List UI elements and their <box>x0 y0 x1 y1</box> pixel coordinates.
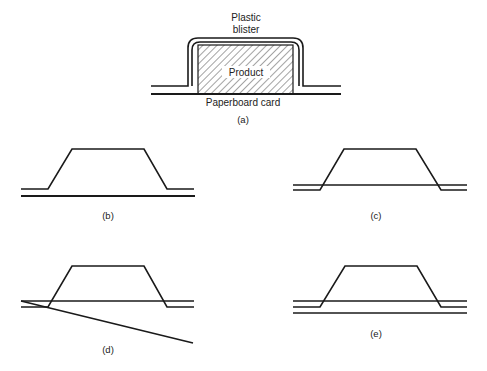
blister-profile-b <box>21 149 194 189</box>
blister-package-diagram: Plastic blister Product Paperboard card … <box>0 0 487 371</box>
label-paperboard-card: Paperboard card <box>206 97 281 108</box>
panel-a: Plastic blister Product Paperboard card … <box>151 12 341 125</box>
caption-a: (a) <box>237 114 249 125</box>
caption-c: (c) <box>370 210 381 221</box>
blister-profile-c <box>293 149 467 190</box>
panel-c: (c) <box>293 149 467 221</box>
caption-b: (b) <box>102 210 114 221</box>
caption-e: (e) <box>370 328 382 339</box>
label-product: Product <box>229 67 264 78</box>
caption-d: (d) <box>102 344 114 355</box>
panel-d: (d) <box>21 266 194 355</box>
panel-e: (e) <box>293 266 467 339</box>
label-blister: blister <box>233 24 260 35</box>
label-plastic: Plastic <box>231 12 260 23</box>
panel-b: (b) <box>21 149 195 221</box>
